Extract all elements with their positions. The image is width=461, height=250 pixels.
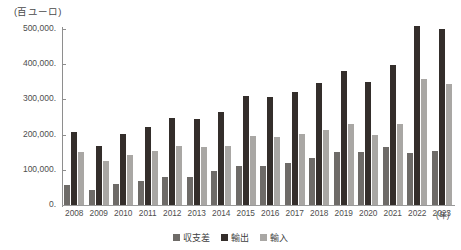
bar bbox=[383, 147, 389, 205]
bar bbox=[250, 136, 256, 205]
legend-label: 収支差 bbox=[183, 231, 210, 244]
bar bbox=[407, 153, 413, 205]
bar-group bbox=[307, 29, 332, 205]
x-axis-tick-label: 2018 bbox=[307, 208, 332, 222]
bar-group bbox=[381, 29, 406, 205]
y-axis-tick-label: 400,000. bbox=[0, 58, 56, 68]
bar bbox=[236, 166, 242, 205]
bar-group bbox=[160, 29, 185, 205]
bar bbox=[162, 177, 168, 205]
x-axis-tick-label: 2012 bbox=[160, 208, 185, 222]
y-axis-tick-label: 500,000. bbox=[0, 23, 56, 33]
bar-group bbox=[209, 29, 234, 205]
bar-group bbox=[87, 29, 112, 205]
x-axis-line bbox=[62, 205, 455, 206]
bar bbox=[218, 112, 224, 205]
bar bbox=[138, 181, 144, 205]
bar bbox=[225, 146, 231, 205]
bar bbox=[243, 96, 249, 205]
legend-swatch-icon bbox=[221, 234, 228, 241]
bar-group bbox=[430, 29, 455, 205]
bar-group bbox=[283, 29, 308, 205]
bar bbox=[365, 82, 371, 205]
bar bbox=[439, 29, 445, 205]
legend-item[interactable]: 収支差 bbox=[173, 231, 210, 244]
y-axis-tick-label: 300,000. bbox=[0, 93, 56, 103]
bar bbox=[71, 132, 77, 205]
x-axis-tick-label: 2011 bbox=[136, 208, 161, 222]
bar bbox=[127, 155, 133, 205]
legend-label: 輸入 bbox=[270, 231, 288, 244]
y-axis-tick-label: 200,000. bbox=[0, 129, 56, 139]
x-axis-tick-label: 2009 bbox=[87, 208, 112, 222]
x-axis-tick-label: 2014 bbox=[209, 208, 234, 222]
bar bbox=[187, 177, 193, 205]
legend-item[interactable]: 輸入 bbox=[260, 231, 288, 244]
bar bbox=[176, 146, 182, 205]
legend-swatch-icon bbox=[260, 234, 267, 241]
y-axis-tick-label: 100,000. bbox=[0, 164, 56, 174]
bar bbox=[334, 152, 340, 205]
bar bbox=[446, 84, 452, 205]
y-axis-unit-caption: (百ユーロ) bbox=[14, 4, 62, 18]
legend-label: 輸出 bbox=[231, 231, 249, 244]
bar-chart: (百ユーロ) 0.100,000.200,000.300,000.400,000… bbox=[0, 0, 461, 250]
bar bbox=[260, 166, 266, 205]
x-axis-unit-label: (年) bbox=[436, 208, 450, 220]
bar-group bbox=[258, 29, 283, 205]
bar bbox=[96, 146, 102, 205]
y-axis-tick-label: 0. bbox=[0, 199, 56, 209]
bar bbox=[152, 151, 158, 205]
bar bbox=[341, 71, 347, 205]
bar bbox=[78, 152, 84, 205]
x-axis-tick-label: 2015 bbox=[234, 208, 259, 222]
x-axis-labels: 2008200920102011201220132014201520162017… bbox=[62, 208, 454, 222]
bar-group bbox=[62, 29, 87, 205]
chart-legend: 収支差輸出輸入 bbox=[0, 231, 461, 244]
legend-swatch-icon bbox=[173, 234, 180, 241]
bar bbox=[64, 185, 70, 205]
x-axis-tick-label: 2019 bbox=[332, 208, 357, 222]
bar-group bbox=[234, 29, 259, 205]
bar-group bbox=[111, 29, 136, 205]
bar bbox=[267, 97, 273, 205]
bar bbox=[145, 127, 151, 205]
bar bbox=[113, 184, 119, 205]
bar bbox=[309, 158, 315, 205]
bar-group bbox=[136, 29, 161, 205]
bar bbox=[285, 163, 291, 205]
bar-group bbox=[185, 29, 210, 205]
x-axis-tick-label: 2021 bbox=[381, 208, 406, 222]
bar bbox=[348, 124, 354, 205]
bar bbox=[194, 119, 200, 205]
bar bbox=[299, 134, 305, 205]
bar-groups bbox=[62, 29, 454, 205]
bar bbox=[432, 151, 438, 205]
bar bbox=[211, 171, 217, 205]
bar-group bbox=[405, 29, 430, 205]
bar bbox=[323, 130, 329, 205]
bar-group bbox=[356, 29, 381, 205]
bar bbox=[397, 124, 403, 205]
x-axis-tick-label: 2010 bbox=[111, 208, 136, 222]
x-axis-tick-label: 2017 bbox=[283, 208, 308, 222]
bar bbox=[414, 26, 420, 205]
bar-group bbox=[332, 29, 357, 205]
bar bbox=[358, 152, 364, 205]
bar bbox=[169, 118, 175, 205]
x-axis-tick-label: 2016 bbox=[258, 208, 283, 222]
x-axis-tick-label: 2008 bbox=[62, 208, 87, 222]
x-axis-tick-label: 2020 bbox=[356, 208, 381, 222]
bar bbox=[103, 161, 109, 205]
x-axis-tick-label: 2013 bbox=[185, 208, 210, 222]
bar bbox=[274, 137, 280, 205]
bar bbox=[201, 147, 207, 205]
bar bbox=[89, 190, 95, 205]
bar bbox=[316, 83, 322, 205]
bar bbox=[390, 65, 396, 205]
legend-item[interactable]: 輸出 bbox=[221, 231, 249, 244]
bar bbox=[120, 134, 126, 205]
bar bbox=[421, 79, 427, 205]
x-axis-tick-label: 2022 bbox=[405, 208, 430, 222]
bar bbox=[292, 92, 298, 205]
